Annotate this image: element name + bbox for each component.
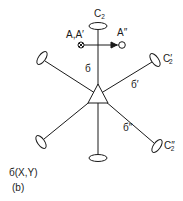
symmetry-diagram: C2 A,A′ A″ б б′ б″ C′2 C″2 б(X,Y) (b) — [0, 0, 183, 201]
plane-sigma-double-prime-label: б″ — [123, 122, 133, 133]
arrow-head-icon — [111, 42, 117, 48]
c2doubleprime-label: C″2 — [164, 140, 175, 152]
plane-sigma-prime-label: б′ — [131, 79, 139, 90]
c2-label: C2 — [94, 8, 105, 20]
atom-a-label: A,A′ — [66, 29, 84, 40]
plane-sigma-label: б — [85, 63, 91, 74]
c2-upper-left-ellipse-icon — [35, 50, 49, 66]
c2-bottom-ellipse-icon — [89, 155, 107, 162]
c2-top-ellipse-icon — [89, 23, 107, 30]
panel-label: (b) — [12, 182, 24, 193]
c2doubleprime-ellipse-icon — [150, 138, 164, 154]
c2prime-label: C′2 — [163, 53, 173, 65]
c2-lower-left-ellipse-icon — [34, 134, 48, 150]
atom-a-double-prime-label: A″ — [117, 27, 128, 38]
symmetry-caption: б(X,Y) — [9, 167, 38, 178]
atom-a-double-prime-circle-icon — [119, 42, 126, 49]
axis-line-upper-right — [98, 62, 152, 95]
c2prime-ellipse-icon — [148, 52, 162, 68]
c3-triangle-icon — [88, 84, 108, 103]
